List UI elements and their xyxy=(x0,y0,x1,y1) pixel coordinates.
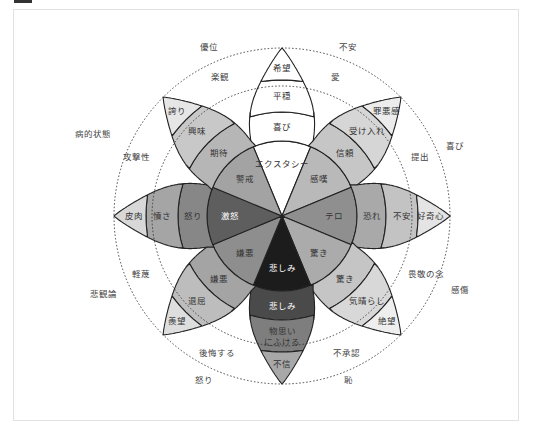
dyad-label: 恥 xyxy=(344,375,353,385)
dyad-label: 怒り xyxy=(195,375,213,385)
emotion-label: 嫌悪 xyxy=(236,248,254,258)
dyad-label: 攻撃性 xyxy=(123,152,150,162)
dyad-label: 優位 xyxy=(200,42,218,52)
emotion-label: 嫌悪 xyxy=(210,274,228,284)
dyad-label: 不承認 xyxy=(333,348,360,358)
emotion-label: 気晴らし xyxy=(349,296,385,306)
emotion-label: 不安 xyxy=(393,211,411,221)
emotion-label: 平穏 xyxy=(273,91,291,101)
emotion-label: 激怒 xyxy=(221,211,239,221)
emotion-label: 憤さ xyxy=(153,211,171,221)
emotion-label: 喜び xyxy=(273,122,291,132)
emotion-label: 信頼 xyxy=(336,148,354,158)
emotion-label: 物思い xyxy=(269,326,296,336)
emotion-label: 皮肉 xyxy=(125,211,143,221)
emotion-label: 恐れ xyxy=(363,211,381,221)
emotion-label: 驚き xyxy=(310,248,328,258)
emotion-label: エクスタシー xyxy=(255,159,309,169)
dyad-label: 軽蔑 xyxy=(132,269,150,279)
emotion-label: 不信 xyxy=(273,359,291,369)
dyad-label: 提出 xyxy=(411,152,429,162)
emotion-label: 羨望 xyxy=(168,316,186,326)
emotion-label: 怒り xyxy=(184,211,202,221)
emotion-label: 受け入れ xyxy=(349,126,385,136)
emotion-label: 驚き xyxy=(336,274,354,284)
dyad-label: 楽観 xyxy=(211,72,229,82)
dyad-label: 喜び xyxy=(446,141,464,151)
emotion-label: 悲しみ xyxy=(269,263,296,273)
emotion-label: 感嘆 xyxy=(310,174,328,184)
dyad-label: 不安 xyxy=(339,42,357,52)
emotion-label: 誇り xyxy=(168,106,186,116)
emotion-label: 罪悪感 xyxy=(373,106,400,116)
dyad-label: 悲観論 xyxy=(90,289,117,299)
dyad-label: 畏敬の念 xyxy=(408,269,444,279)
emotion-label: 期待 xyxy=(210,148,228,158)
dyad-label: 愛 xyxy=(331,72,340,82)
emotion-label: 悲しみ xyxy=(269,301,296,311)
emotion-label: テロ xyxy=(325,211,343,221)
plutchik-emotion-wheel: エクスタシー喜び平穏希望感嘆信頼受け入れ罪悪感テロ恐れ不安好奇心驚き驚き気晴らし… xyxy=(0,0,534,430)
emotion-label: 警戒 xyxy=(236,174,254,184)
emotion-label: 好奇心 xyxy=(417,211,444,221)
emotion-label: 興味 xyxy=(188,126,206,136)
emotion-label: 希望 xyxy=(273,63,291,73)
emotion-label: 退屈 xyxy=(188,296,206,306)
dyad-label: 病的状態 xyxy=(75,129,111,139)
dyad-label: 後悔する xyxy=(199,348,235,358)
emotion-label: 絶望 xyxy=(378,316,396,326)
dyad-label: 感傷 xyxy=(451,285,469,295)
emotion-label: にふける xyxy=(264,337,300,347)
